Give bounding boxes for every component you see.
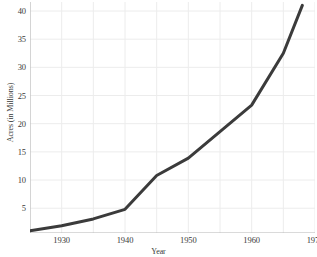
axis-spines	[30, 2, 315, 233]
y-tick-label: 40	[18, 7, 26, 16]
x-tick-label: 1960	[243, 236, 260, 245]
y-tick-label: 15	[18, 147, 26, 156]
y-tick-label: 30	[18, 63, 26, 72]
vertical-gridlines	[30, 2, 315, 233]
x-axis-title: Year	[0, 247, 317, 256]
y-tick-label: 35	[18, 35, 26, 44]
x-tick-label: 1930	[53, 236, 70, 245]
y-axis-title: Acres (in Millions)	[6, 63, 15, 163]
horizontal-gridlines	[30, 11, 315, 208]
y-tick-label: 20	[18, 119, 26, 128]
x-tick-label: 1940	[117, 236, 134, 245]
plot-svg	[30, 2, 315, 233]
y-tick-label: 25	[18, 91, 26, 100]
plot-area	[30, 2, 315, 233]
y-tick-label: 10	[18, 176, 26, 185]
x-tick-label: 1950	[180, 236, 197, 245]
x-tick-label: 1970	[307, 236, 317, 245]
line-chart: 510152025303540 19301940195019601970 Yea…	[0, 0, 317, 257]
y-tick-label: 5	[22, 204, 26, 213]
